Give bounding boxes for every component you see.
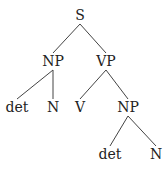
tree-edge — [106, 70, 128, 99]
tree-node-v: V — [74, 99, 86, 115]
tree-edge — [110, 116, 128, 146]
tree-node-np1: NP — [42, 53, 64, 69]
tree-edge — [17, 70, 53, 99]
tree-node-np2: NP — [117, 99, 139, 115]
tree-node-det1: det — [6, 99, 29, 115]
tree-node-n2: N — [150, 146, 162, 162]
tree-node-vp: VP — [95, 53, 116, 69]
tree-edge — [128, 116, 156, 146]
parse-tree: SNPVPdetNVNPdetN — [0, 0, 167, 169]
tree-node-s: S — [75, 7, 85, 23]
tree-node-n1: N — [47, 99, 59, 115]
tree-node-det2: det — [99, 146, 122, 162]
tree-edge — [80, 70, 106, 99]
tree-edge — [80, 24, 106, 53]
tree-edge — [53, 24, 80, 53]
